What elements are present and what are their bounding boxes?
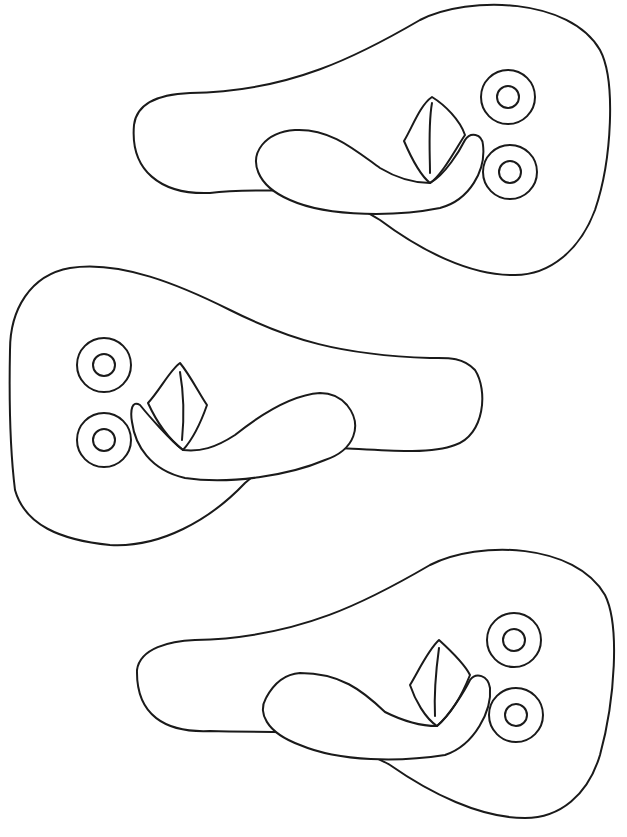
sandal-bottom bbox=[137, 550, 614, 818]
sandal-middle bbox=[10, 266, 483, 545]
sandal-sole bbox=[137, 550, 614, 818]
sandal-sole bbox=[10, 266, 483, 545]
coloring-page-canvas bbox=[0, 0, 627, 837]
sandal-top bbox=[134, 5, 610, 275]
sandal-sole bbox=[134, 5, 610, 275]
